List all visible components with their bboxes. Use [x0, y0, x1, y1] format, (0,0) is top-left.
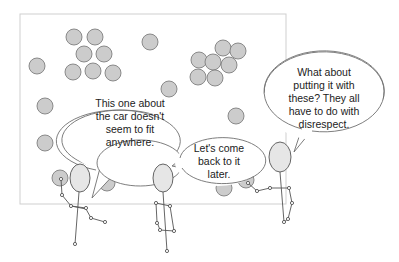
card[interactable]	[221, 57, 237, 73]
card[interactable]	[37, 98, 53, 114]
person-left-head	[70, 164, 90, 192]
speech-text-middle: Let's come back to it later.	[175, 142, 263, 181]
speech-line: What about	[270, 66, 378, 79]
speech-line: these? They all	[270, 92, 378, 105]
card[interactable]	[96, 46, 112, 62]
card[interactable]	[85, 63, 101, 79]
card[interactable]	[142, 34, 158, 50]
card[interactable]	[66, 29, 82, 45]
card[interactable]	[65, 64, 81, 80]
card[interactable]	[87, 29, 103, 45]
speech-line: anywhere.	[70, 136, 190, 149]
speech-text-right: What about putting it with these? They a…	[270, 66, 378, 131]
card[interactable]	[228, 108, 244, 124]
speech-line: disrespect.	[270, 118, 378, 131]
card[interactable]	[29, 58, 45, 74]
card[interactable]	[190, 69, 206, 85]
speech-text-left: This one about the car doesn't seem to f…	[70, 97, 190, 149]
person-middle	[153, 164, 176, 253]
speech-line: seem to fit	[70, 123, 190, 136]
card[interactable]	[191, 52, 207, 68]
card[interactable]	[37, 135, 53, 151]
speech-line: back to it	[175, 155, 263, 168]
card[interactable]	[76, 46, 92, 62]
card[interactable]	[207, 70, 223, 86]
card[interactable]	[105, 65, 121, 81]
person-middle-head	[153, 164, 173, 192]
card[interactable]	[215, 40, 231, 56]
person-right-head	[269, 142, 291, 172]
card[interactable]	[230, 43, 246, 59]
card[interactable]	[161, 81, 177, 97]
speech-line: later.	[175, 168, 263, 181]
speech-line: putting it with	[270, 79, 378, 92]
scene	[0, 0, 399, 262]
speech-line: Let's come	[175, 142, 263, 155]
speech-line: have to do with	[270, 105, 378, 118]
speech-line: the car doesn't	[70, 110, 190, 123]
speech-line: This one about	[70, 97, 190, 110]
card[interactable]	[205, 54, 221, 70]
